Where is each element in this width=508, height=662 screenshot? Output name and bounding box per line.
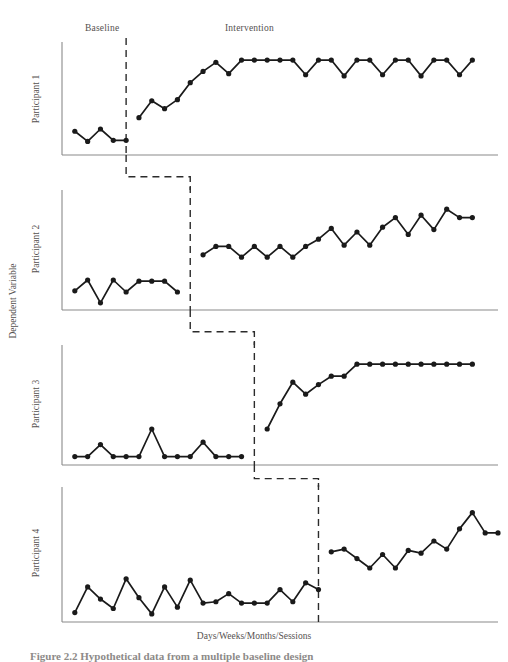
panel-4-intervention-data-point <box>329 549 334 554</box>
panel-1-intervention-data-point <box>175 97 180 102</box>
panel-4-baseline-data-point <box>98 596 103 601</box>
panel-2-intervention-data-point <box>303 244 308 249</box>
panel-3-intervention-data-point <box>265 426 270 431</box>
panel-1-intervention-data-point <box>470 57 475 62</box>
panel-2-intervention-data-point <box>226 244 231 249</box>
panel-2-intervention-data-point <box>470 215 475 220</box>
panel-1-baseline-data-point <box>72 129 77 134</box>
panel-1-intervention-data-point <box>252 57 257 62</box>
panel-1-intervention-data-point <box>431 57 436 62</box>
phase-connector-1-to-2 <box>126 155 190 190</box>
panel-4-baseline-data-point <box>162 584 167 589</box>
panel-3-intervention-data-point <box>277 401 282 406</box>
panel-2-baseline-data-point <box>85 277 90 282</box>
panel-1-intervention-data-point <box>188 80 193 85</box>
panel-3-baseline-data-point <box>124 454 129 459</box>
figure-caption: Figure 2.2 Hypothetical data from a mult… <box>30 650 500 662</box>
panel-2-intervention-data-point <box>444 207 449 212</box>
panel-4-intervention-data-point <box>483 530 488 535</box>
phase-label-intervention: Intervention <box>225 23 274 33</box>
panel-1-baseline-data-point <box>111 138 116 143</box>
panel-4-intervention-data-point <box>444 547 449 552</box>
panel-2-intervention-data-point <box>252 244 257 249</box>
panel-4-intervention-data-point <box>418 551 423 556</box>
panel-1-intervention-data-point <box>200 69 205 74</box>
panel-2-intervention-data-point <box>329 226 334 231</box>
panel-3-baseline-data-point <box>175 454 180 459</box>
panel-1-intervention-data-point <box>342 73 347 78</box>
panel-1-baseline-data-point <box>124 138 129 143</box>
panel-label-participant-2: Participant 2 <box>31 201 41 297</box>
panel-4-baseline-data-point <box>226 591 231 596</box>
panel-1-intervention-data-point <box>136 115 141 120</box>
panel-label-participant-1: Participant 1 <box>31 51 41 147</box>
panel-4-intervention-data-point <box>470 510 475 515</box>
panel-1-intervention-data-point <box>149 98 154 103</box>
panel-2-baseline-data-point <box>98 300 103 305</box>
panel-4-baseline-data-point <box>72 610 77 615</box>
panel-3-baseline-data-point <box>200 440 205 445</box>
panel-4-intervention-data-point <box>406 548 411 553</box>
panel-3-baseline-data-point <box>111 454 116 459</box>
panel-3-baseline-data-point <box>85 454 90 459</box>
panel-3-baseline-data-point <box>149 426 154 431</box>
panel-4-baseline-data-point <box>290 599 295 604</box>
panel-4-intervention-data-point <box>495 530 500 535</box>
panel-3-intervention-data-point <box>457 362 462 367</box>
panel-2-baseline-data-point <box>124 289 129 294</box>
panel-3-intervention-data-point <box>406 362 411 367</box>
panel-4-baseline-data-point <box>85 584 90 589</box>
panel-3-baseline-data-point <box>213 454 218 459</box>
panel-1-intervention-data-point <box>393 57 398 62</box>
panel-1-intervention-data-point <box>162 106 167 111</box>
panel-label-participant-4: Participant 4 <box>31 505 41 601</box>
panel-3-intervention-data-point <box>316 382 321 387</box>
panel-3-intervention-data-point <box>470 362 475 367</box>
panel-4-baseline-data-point <box>265 601 270 606</box>
panel-3-baseline-data-point <box>136 454 141 459</box>
panel-3-intervention-data-point <box>290 380 295 385</box>
panel-2-intervention-data-point <box>316 237 321 242</box>
panel-4-baseline-data-point <box>149 611 154 616</box>
panel-4-intervention-data-point <box>393 565 398 570</box>
panel-3-intervention-data-point <box>342 374 347 379</box>
panel-1-intervention-data-point <box>367 57 372 62</box>
panel-2-intervention-data-point <box>265 255 270 260</box>
panel-1-intervention-data-point <box>316 57 321 62</box>
panel-1-intervention-data-point <box>290 57 295 62</box>
y-axis-title: Dependent Variable <box>8 241 18 361</box>
x-axis-title: Days/Weeks/Months/Sessions <box>0 631 508 641</box>
panel-4-intervention-data-point <box>431 538 436 543</box>
panel-4-intervention-data-point <box>457 526 462 531</box>
panel-4-baseline-data-point <box>303 580 308 585</box>
panel-2-intervention-data-point <box>354 229 359 234</box>
panel-1-intervention-data-point <box>380 72 385 77</box>
panel-1-intervention-data-point <box>457 72 462 77</box>
panel-1-intervention-data-point <box>226 71 231 76</box>
panel-4-intervention-data-point <box>380 552 385 557</box>
panel-3-baseline-data-point <box>239 454 244 459</box>
panel-2-baseline-data-point <box>175 289 180 294</box>
panel-3-baseline-data-point <box>98 442 103 447</box>
panel-1-intervention-data-point <box>406 57 411 62</box>
panel-1-intervention-data-point <box>303 72 308 77</box>
panel-2-intervention-data-point <box>290 255 295 260</box>
panel-1-baseline-data-point <box>98 126 103 131</box>
panel-3-intervention-line <box>267 364 472 429</box>
panel-3-intervention-data-point <box>431 362 436 367</box>
panel-3-intervention-data-point <box>444 362 449 367</box>
panel-1-intervention-data-point <box>444 57 449 62</box>
panel-4-baseline-data-point <box>200 601 205 606</box>
panel-4-baseline-data-point <box>136 595 141 600</box>
panel-1-intervention-data-point <box>239 57 244 62</box>
panel-2-baseline-data-point <box>72 288 77 293</box>
panel-1-intervention-data-point <box>277 57 282 62</box>
panel-2-baseline-data-point <box>162 279 167 284</box>
panel-2-intervention-data-point <box>431 227 436 232</box>
panel-3-intervention-data-point <box>303 392 308 397</box>
panel-2-intervention-data-point <box>342 243 347 248</box>
panel-1-intervention-line <box>139 60 472 118</box>
panel-4-baseline-data-point <box>175 605 180 610</box>
panel-2-intervention-data-point <box>457 215 462 220</box>
panel-4-baseline-data-point <box>124 576 129 581</box>
